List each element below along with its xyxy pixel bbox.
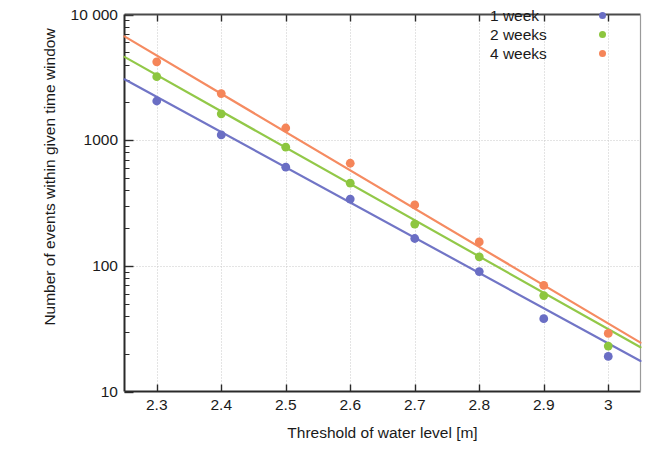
x-axis-tick: 2.6 [339,396,361,414]
chart-figure: 10 000100010010 Number of events within … [0,0,646,451]
x-axis-tick: 2.3 [146,396,168,414]
x-axis-tick: 2.7 [404,396,426,414]
legend-item: 4 weeks [490,44,640,63]
legend-label: 4 weeks [490,45,547,63]
legend-marker-4-weeks [599,50,606,57]
legend-marker-2-weeks [599,31,606,38]
chart-legend: 1 week 2 weeks 4 weeks [490,6,640,63]
x-axis-tick: 3 [604,396,613,414]
legend-marker-1-week [599,12,606,19]
legend-item: 1 week [490,6,640,25]
x-axis-tick: 2.9 [533,396,555,414]
plot-area [0,0,646,451]
legend-item: 2 weeks [490,25,640,44]
x-axis-tick: 2.4 [210,396,232,414]
legend-label: 2 weeks [490,26,547,44]
legend-label: 1 week [490,7,539,25]
x-axis-tick: 2.8 [468,396,490,414]
x-axis-tick: 2.5 [275,396,297,414]
